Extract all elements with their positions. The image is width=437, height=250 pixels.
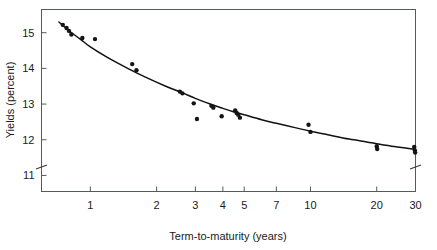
data-point	[219, 114, 223, 118]
y-tick-label: 14	[22, 62, 34, 74]
data-point	[413, 150, 417, 154]
y-tick-label: 13	[22, 98, 34, 110]
data-point	[130, 62, 134, 66]
y-tick-label: 15	[22, 27, 34, 39]
x-axis-ticks: 123457102030	[87, 187, 421, 211]
data-point	[195, 117, 199, 121]
x-tick-label: 3	[192, 199, 198, 211]
y-axis-title: Yields (percent)	[4, 62, 16, 139]
data-point	[69, 32, 73, 36]
fitted-curve	[59, 22, 416, 149]
data-point	[306, 123, 310, 127]
data-point	[211, 105, 215, 109]
x-tick-label: 30	[409, 199, 421, 211]
data-point	[80, 36, 84, 40]
x-tick-label: 4	[220, 199, 226, 211]
data-point	[93, 37, 97, 41]
data-point	[375, 147, 379, 151]
plot-frame	[42, 10, 416, 192]
y-axis-ticks: 1112131415	[22, 27, 46, 182]
x-tick-label: 1	[87, 199, 93, 211]
data-point	[61, 23, 65, 27]
yield-curve-chart: 1112131415 123457102030 Term-to-maturity…	[0, 0, 437, 250]
data-point	[238, 115, 242, 119]
x-tick-label: 2	[154, 199, 160, 211]
axis-break-marks	[36, 165, 421, 169]
y-tick-label: 12	[22, 134, 34, 146]
x-axis-title: Term-to-maturity (years)	[169, 230, 286, 242]
scatter-points	[61, 23, 418, 155]
x-tick-label: 10	[304, 199, 316, 211]
x-tick-label: 5	[241, 199, 247, 211]
data-point	[180, 91, 184, 95]
x-tick-label: 20	[371, 199, 383, 211]
y-tick-label: 11	[23, 169, 34, 181]
chart-figure: 1112131415 123457102030 Term-to-maturity…	[0, 0, 437, 250]
data-point	[134, 68, 138, 72]
x-tick-label: 7	[273, 199, 279, 211]
data-point	[192, 101, 196, 105]
data-point	[308, 130, 312, 134]
